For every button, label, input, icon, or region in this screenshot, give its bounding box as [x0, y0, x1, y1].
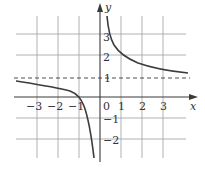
right-branch-curve — [107, 16, 188, 73]
function-graph: −3 −2 −1 0 1 2 3 3 2 1 −1 −2 x y — [0, 0, 205, 170]
y-tick-2: 2 — [103, 51, 110, 64]
x-tick-3: 3 — [160, 100, 167, 113]
y-axis-label: y — [104, 1, 112, 14]
x-tick-origin: 0 — [103, 100, 110, 113]
x-tick-labels: −3 −2 −1 0 1 2 3 — [26, 100, 167, 113]
x-tick-1: 1 — [118, 100, 125, 113]
x-tick-2: 2 — [139, 100, 146, 113]
y-axis-arrow-icon — [97, 3, 103, 12]
x-axis-label: x — [190, 100, 197, 113]
x-tick-neg3: −3 — [26, 100, 42, 113]
x-tick-neg2: −2 — [47, 100, 63, 113]
grid — [16, 16, 186, 158]
y-tick-1: 1 — [104, 72, 111, 85]
y-tick-neg2: −2 — [103, 134, 119, 147]
left-branch-curve — [16, 81, 94, 158]
y-tick-3: 3 — [103, 31, 110, 44]
y-tick-neg1: −1 — [103, 113, 119, 126]
x-tick-neg1: −1 — [68, 100, 84, 113]
